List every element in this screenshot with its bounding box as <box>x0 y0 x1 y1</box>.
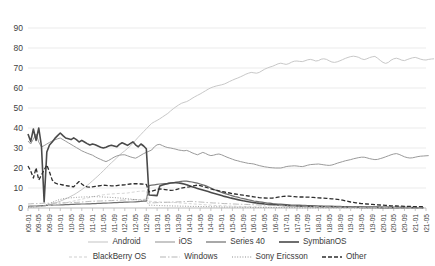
x-axis-tick-label: 2018-01 <box>315 214 322 232</box>
x-axis-tick-label: 2014-01 <box>186 214 193 232</box>
x-axis-tick-label: 2014-09 <box>207 214 214 232</box>
x-axis-tick-label: 2016-01 <box>250 214 257 232</box>
y-axis-tick-label: 30 <box>14 143 24 153</box>
legend-row: AndroidiOSSeries 40SymbianOS <box>0 234 435 249</box>
x-axis-tick-label: 2014-05 <box>197 214 204 232</box>
x-axis-tick-label: 2019-01 <box>347 214 354 232</box>
legend-swatch-android-icon <box>88 238 108 246</box>
x-axis-tick-label: 2015-05 <box>229 214 236 232</box>
x-axis-tick-label: 2013-01 <box>154 214 161 232</box>
x-axis-tick-label: 2018-05 <box>326 214 333 232</box>
legend-label-symbianos: SymbianOS <box>303 237 347 246</box>
x-axis-tick-label: 2012-05 <box>132 214 139 232</box>
y-axis-tick-label: 20 <box>14 163 24 173</box>
legend-swatch-series-40-icon <box>206 238 226 246</box>
legend-swatch-blackberry-os-icon <box>69 253 89 261</box>
x-axis-tick-label: 2021-01 <box>412 214 419 232</box>
series-line-android <box>28 56 434 207</box>
legend-row: BlackBerry OSWindowsSony EricssonOther <box>0 249 435 264</box>
y-axis-tick-label: 50 <box>14 103 24 113</box>
chart-root: 01020304050607080902009-012009-052009-09… <box>0 0 435 266</box>
legend-label-sony-ericsson: Sony Ericsson <box>256 252 308 261</box>
x-axis-tick-label: 2011-05 <box>100 214 107 232</box>
line-chart-svg: 01020304050607080902009-012009-052009-09… <box>0 0 435 232</box>
y-axis-tick-label: 80 <box>14 43 24 53</box>
legend-label-windows: Windows <box>184 252 217 261</box>
x-axis-tick-label: 2020-05 <box>390 214 397 232</box>
x-axis-tick-label: 2011-09 <box>111 214 118 232</box>
x-axis-tick-label: 2015-01 <box>218 214 225 232</box>
legend-item-blackberry-os[interactable]: BlackBerry OS <box>69 252 147 261</box>
x-axis-tick-label: 2021-05 <box>423 214 430 232</box>
legend-item-android[interactable]: Android <box>88 237 140 246</box>
legend-swatch-windows-icon <box>160 253 180 261</box>
x-axis-tick-label: 2020-01 <box>380 214 387 232</box>
y-axis-tick-label: 40 <box>14 123 24 133</box>
legend-item-symbianos[interactable]: SymbianOS <box>279 237 347 246</box>
y-axis-tick-label: 90 <box>14 23 24 33</box>
legend-item-sony-ericsson[interactable]: Sony Ericsson <box>232 252 308 261</box>
legend-swatch-ios-icon <box>155 238 175 246</box>
y-axis-tick-label: 0 <box>18 203 23 213</box>
legend-swatch-symbianos-icon <box>279 238 299 246</box>
x-axis-tick-label: 2018-09 <box>337 214 344 232</box>
x-axis-tick-label: 2009-09 <box>46 214 53 232</box>
chart-legend: AndroidiOSSeries 40SymbianOSBlackBerry O… <box>0 234 435 266</box>
x-axis-tick-label: 2013-05 <box>164 214 171 232</box>
y-axis-tick-label: 70 <box>14 63 24 73</box>
legend-item-ios[interactable]: iOS <box>155 237 193 246</box>
x-axis-tick-label: 2009-05 <box>35 214 42 232</box>
y-axis-tick-label: 10 <box>14 183 24 193</box>
x-axis-tick-label: 2019-09 <box>369 214 376 232</box>
legend-label-blackberry-os: BlackBerry OS <box>93 252 147 261</box>
series-line-ios <box>28 134 429 168</box>
legend-item-other[interactable]: Other <box>322 252 366 261</box>
legend-label-other: Other <box>346 252 366 261</box>
x-axis-tick-label: 2010-09 <box>78 214 85 232</box>
x-axis-tick-label: 2009-01 <box>25 214 32 232</box>
legend-label-series-40: Series 40 <box>230 237 265 246</box>
x-axis-tick-label: 2012-01 <box>121 214 128 232</box>
x-axis-tick-label: 2013-09 <box>175 214 182 232</box>
legend-item-series-40[interactable]: Series 40 <box>206 237 265 246</box>
legend-label-android: Android <box>112 237 140 246</box>
x-axis-tick-label: 2016-09 <box>272 214 279 232</box>
x-axis-tick-label: 2015-09 <box>240 214 247 232</box>
legend-swatch-sony-ericsson-icon <box>232 253 252 261</box>
x-axis-tick-label: 2017-05 <box>294 214 301 232</box>
x-axis-tick-label: 2017-09 <box>304 214 311 232</box>
x-axis-tick-label: 2017-01 <box>283 214 290 232</box>
plot-area: 01020304050607080902009-012009-052009-09… <box>0 0 435 232</box>
legend-label-ios: iOS <box>179 237 193 246</box>
legend-swatch-other-icon <box>322 253 342 261</box>
x-axis-tick-label: 2010-05 <box>68 214 75 232</box>
x-axis-tick-label: 2016-05 <box>261 214 268 232</box>
x-axis-tick-label: 2011-01 <box>89 214 96 232</box>
legend-item-windows[interactable]: Windows <box>160 252 217 261</box>
x-axis-tick-label: 2020-09 <box>401 214 408 232</box>
x-axis-tick-label: 2012-09 <box>143 214 150 232</box>
x-axis-tick-label: 2010-01 <box>57 214 64 232</box>
y-axis-tick-label: 60 <box>14 83 24 93</box>
x-axis-tick-label: 2019-05 <box>358 214 365 232</box>
